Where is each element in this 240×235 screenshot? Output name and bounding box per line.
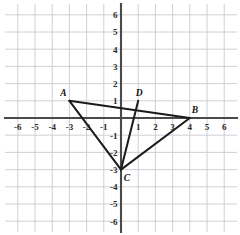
y-tick-label: 1 [113,96,118,106]
y-tick-label: 6 [113,10,118,20]
x-tick-label: 5 [205,122,210,132]
y-tick-label: -2 [110,148,118,158]
vertex-label-a: A [59,88,66,98]
y-tick-label: -6 [110,217,118,227]
y-tick-label: 2 [113,79,118,89]
vertex-label-d: D [135,88,143,98]
x-tick-label: -6 [14,122,22,132]
y-tick-label: 4 [113,45,118,55]
vertex-label-b: B [191,105,198,115]
x-tick-label: 2 [153,122,158,132]
x-tick-label: -1 [100,122,108,132]
x-tick-label: 1 [136,122,141,132]
x-tick-label: -5 [31,122,39,132]
y-tick-label: -3 [110,165,118,175]
x-tick-label: -2 [83,122,91,132]
x-tick-label: 6 [222,122,227,132]
coordinate-plane-figure: -6-5-4-3-2-1123456 654321-1-2-3-4-5-6 AB… [0,0,240,235]
vertex-label-c: C [124,173,131,183]
x-tick-label: -3 [66,122,74,132]
x-tick-label: 4 [188,122,193,132]
y-tick-label: 3 [113,62,118,72]
x-tick-label: 3 [170,122,175,132]
y-tick-label: -1 [110,131,118,141]
y-tick-label: -4 [110,182,118,192]
y-tick-label: 5 [113,27,118,37]
x-tick-label: -4 [48,122,56,132]
coordinate-plane-svg: -6-5-4-3-2-1123456 654321-1-2-3-4-5-6 AB… [0,0,240,235]
y-tick-label: -5 [110,199,118,209]
